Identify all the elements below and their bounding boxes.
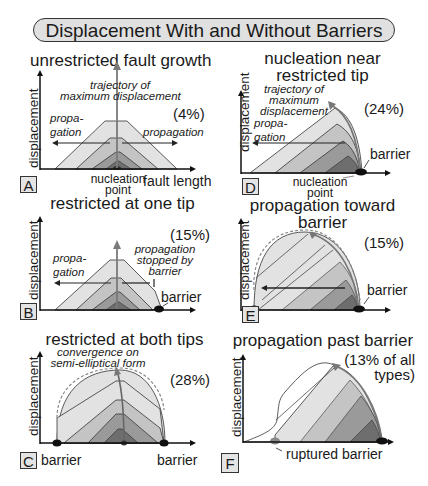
panel-f-plot (0, 0, 428, 486)
ruptured-barrier-label: ruptured barrier (286, 447, 383, 461)
panel-label-f: F (221, 453, 239, 473)
